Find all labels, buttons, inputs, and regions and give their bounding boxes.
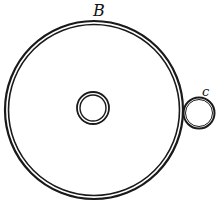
small-ring-outer-line: [184, 98, 215, 129]
center-ring-inner-line: [80, 95, 106, 121]
small-ring-c: [184, 98, 215, 129]
outer-ring-inner-line: [9, 25, 180, 196]
center-ring: [77, 92, 109, 124]
label-b: B: [92, 1, 105, 20]
small-ring-inner-line: [186, 100, 213, 127]
outer-ring-b: [5, 21, 183, 199]
label-c: c: [202, 84, 210, 99]
center-ring-outer-line: [77, 92, 109, 124]
outer-ring-outer-line: [5, 21, 183, 199]
diagram-canvas: B c: [0, 0, 219, 203]
